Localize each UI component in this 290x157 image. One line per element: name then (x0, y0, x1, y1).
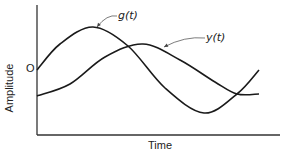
g-curve (37, 27, 259, 113)
origin-label: O (26, 62, 35, 74)
y-leader-arrow (164, 38, 205, 47)
g-curve-label: g(t) (118, 9, 138, 22)
chart-canvas (0, 0, 290, 157)
y-curve-label: y(t) (206, 31, 225, 44)
y-axis-label: Amplitude (3, 64, 15, 113)
x-axis-label: Time (148, 139, 172, 151)
